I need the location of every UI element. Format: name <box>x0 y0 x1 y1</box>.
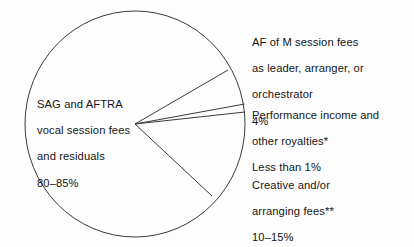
pie-label-sag-aftra-line-3: and residuals <box>37 150 167 163</box>
pie-label-performance-line-1: Performance income and <box>252 109 412 122</box>
pie-label-creative-line-2: arranging fees** <box>252 205 412 218</box>
pie-label-sag-aftra-value: 80–85% <box>37 177 167 190</box>
pie-label-creative: Creative and/or arranging fees** 10–15% <box>252 166 412 247</box>
pie-label-sag-aftra-line-1: SAG and AFTRA <box>37 98 167 111</box>
pie-chart-figure: SAG and AFTRA vocal session fees and res… <box>0 0 414 247</box>
pie-label-performance-line-2: other royalties* <box>252 135 412 148</box>
pie-label-creative-line-1: Creative and/or <box>252 179 412 192</box>
pie-label-afm-line-1: AF of M session fees <box>252 36 412 49</box>
pie-label-sag-aftra-line-2: vocal session fees <box>37 124 167 137</box>
pie-label-afm-line-2: as leader, arranger, or <box>252 62 412 75</box>
pie-label-creative-value: 10–15% <box>252 231 412 244</box>
pie-label-sag-aftra: SAG and AFTRA vocal session fees and res… <box>37 85 167 203</box>
